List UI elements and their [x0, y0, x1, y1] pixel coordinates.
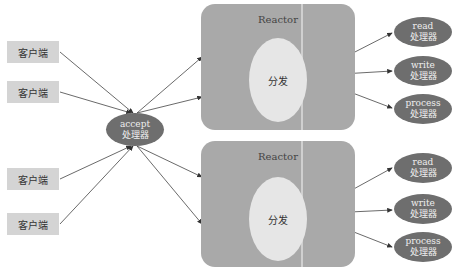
client-box-1: 客户端 — [7, 41, 59, 63]
client-label: 客户端 — [18, 45, 48, 60]
accept-sublabel: 处理器 — [122, 130, 149, 141]
handler-label: process — [405, 98, 440, 109]
handler-label: process — [405, 236, 440, 247]
handler-sublabel: 处理器 — [410, 109, 437, 120]
client-box-2: 客户端 — [7, 81, 59, 103]
client-box-4: 客户端 — [7, 213, 59, 235]
dispatch-label: 分发 — [268, 73, 288, 88]
read-handler-node-1: read 处理器 — [394, 17, 452, 47]
handler-sublabel: 处理器 — [410, 247, 437, 258]
client-label: 客户端 — [18, 85, 48, 100]
reactor-title: Reactor — [201, 14, 355, 25]
dispatch-node: 分发 — [249, 177, 307, 261]
handler-label: write — [411, 60, 435, 71]
process-handler-node-1: process 处理器 — [394, 94, 452, 124]
dispatch-label: 分发 — [268, 212, 288, 227]
dispatch-node: 分发 — [249, 38, 307, 122]
client-label: 客户端 — [18, 172, 48, 187]
handler-sublabel: 处理器 — [410, 209, 437, 220]
client-box-3: 客户端 — [7, 168, 59, 190]
accept-label: accept — [120, 119, 150, 130]
reactor-box-1: Reactor 分发 — [201, 4, 355, 130]
handler-label: write — [411, 198, 435, 209]
handler-sublabel: 处理器 — [410, 168, 437, 179]
write-handler-node-2: write 处理器 — [394, 194, 452, 224]
handler-label: read — [413, 157, 434, 168]
handler-sublabel: 处理器 — [410, 71, 437, 82]
process-handler-node-2: process 处理器 — [394, 232, 452, 262]
accept-handler-node: accept 处理器 — [106, 113, 164, 146]
client-label: 客户端 — [18, 217, 48, 232]
handler-sublabel: 处理器 — [410, 32, 437, 43]
handler-label: read — [413, 21, 434, 32]
reactor-box-2: Reactor 分发 — [201, 141, 355, 267]
write-handler-node-1: write 处理器 — [394, 56, 452, 86]
read-handler-node-2: read 处理器 — [394, 153, 452, 183]
reactor-title: Reactor — [201, 151, 355, 162]
